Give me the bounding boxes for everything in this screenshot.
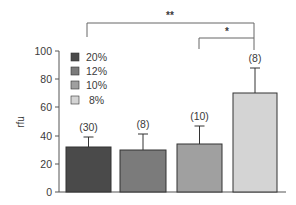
legend-item-8: 8% bbox=[71, 94, 104, 106]
y-tick-100: 100 bbox=[34, 45, 52, 57]
svg-text:8%: 8% bbox=[86, 94, 104, 106]
y-axis-title: rfu bbox=[15, 116, 26, 128]
y-tick-0: 0 bbox=[46, 186, 52, 198]
n-label: (8) bbox=[249, 52, 262, 64]
legend-item-12: 12% bbox=[71, 65, 107, 77]
bar-8-percent: (8) bbox=[233, 52, 277, 192]
significance-inner: * bbox=[225, 26, 229, 37]
bar-chart: 0 20 40 60 80 100 rfu (30) (8) (10) bbox=[0, 0, 296, 205]
bar-20-percent: (30) bbox=[66, 121, 111, 192]
y-tick-80: 80 bbox=[40, 73, 52, 85]
significance-outer: ** bbox=[166, 10, 174, 21]
y-tick-40: 40 bbox=[40, 130, 52, 142]
svg-text:20%: 20% bbox=[86, 51, 107, 63]
y-axis: 0 20 40 60 80 100 rfu bbox=[15, 45, 59, 198]
legend-item-20: 20% bbox=[71, 51, 107, 63]
bar-12-percent: (8) bbox=[120, 118, 166, 192]
n-label: (30) bbox=[79, 121, 98, 133]
y-tick-20: 20 bbox=[40, 158, 52, 170]
legend-item-10: 10% bbox=[71, 79, 107, 91]
bar-10-percent: (10) bbox=[177, 110, 222, 192]
y-tick-60: 60 bbox=[40, 101, 52, 113]
svg-text:12%: 12% bbox=[86, 65, 107, 77]
n-label: (8) bbox=[137, 118, 150, 130]
significance-brackets: ** * bbox=[87, 10, 254, 50]
legend: 20% 12% 10% 8% bbox=[71, 51, 107, 106]
svg-text:10%: 10% bbox=[86, 79, 107, 91]
n-label: (10) bbox=[190, 110, 209, 122]
